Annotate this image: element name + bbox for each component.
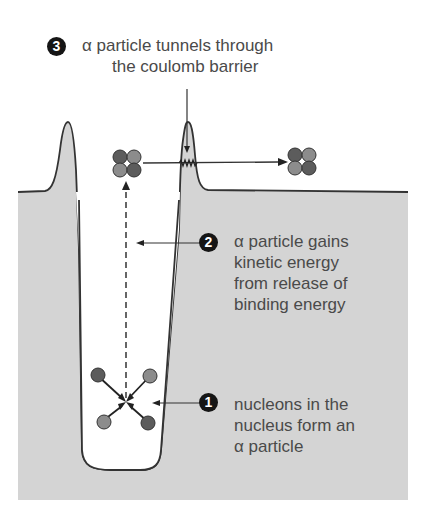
alpha-particle-emitted: [288, 148, 316, 175]
step-badge-3: 3: [47, 37, 66, 56]
step-badge-1: 1: [199, 393, 218, 412]
step-3-text: α particle tunnels through the coulomb b…: [82, 35, 273, 77]
arrowhead-up-icon: [122, 181, 130, 190]
step-1-line: nucleons in the: [234, 394, 355, 415]
step-3-line: α particle tunnels through: [82, 35, 273, 56]
step-2-line: from release of: [234, 273, 349, 294]
alpha-decay-diagram: [0, 0, 425, 519]
step-2-text: α particle gains kinetic energy from rel…: [234, 231, 349, 315]
step-badge-2: 2: [199, 233, 218, 252]
arrowhead-right-icon: [278, 158, 288, 166]
tunnel-arrow: [143, 162, 278, 163]
alpha-particle-inside: [113, 150, 141, 177]
step-1-text: nucleons in the nucleus form an α partic…: [234, 394, 355, 457]
step-1-line: nucleus form an: [234, 415, 355, 436]
step-2-line: binding energy: [234, 294, 349, 315]
step-2-line: kinetic energy: [234, 252, 349, 273]
step-3-line: the coulomb barrier: [82, 56, 273, 77]
step-2-line: α particle gains: [234, 231, 349, 252]
step-1-line: α particle: [234, 436, 355, 457]
